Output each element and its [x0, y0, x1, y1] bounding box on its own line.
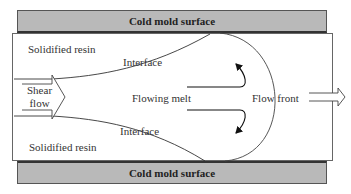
interface-top-label: Interface — [123, 56, 162, 68]
shear-flow-line1: Shear — [27, 84, 52, 97]
shear-flow-line2: flow — [27, 97, 52, 110]
top-interface-line — [14, 34, 210, 79]
flowing-melt-label: Flowing melt — [132, 92, 191, 104]
fountain-arrow-down — [187, 110, 245, 133]
bottom-interface-line — [14, 116, 205, 161]
shear-flow-label: Shear flow — [27, 84, 52, 110]
solidified-resin-top-label: Solidified resin — [28, 43, 96, 55]
flow-front-label: Flow front — [252, 92, 299, 104]
interface-bottom-label: Interface — [120, 125, 159, 137]
fountain-arrow-up — [187, 64, 245, 87]
solidified-resin-bottom-label: Solidified resin — [29, 141, 97, 153]
outgoing-flow-arrow — [309, 88, 345, 106]
